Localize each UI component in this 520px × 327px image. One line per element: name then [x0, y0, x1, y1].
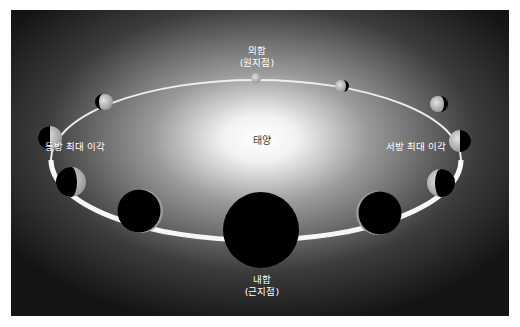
planet-right-lower: [427, 169, 455, 197]
greatest-eastern-elongation-label: 동방 최대 이각: [45, 141, 105, 153]
superior-conjunction-subtitle: (원지점): [240, 57, 274, 69]
inferior-conjunction-label: 내합 (근지점): [245, 274, 279, 298]
sun-label: 태양: [253, 135, 271, 147]
planet-top-right: [335, 80, 349, 92]
orbit-diagram-panel: 외합 (원지점) 태양 동방 최대 이각 서방 최대 이각 내합 (근지점): [11, 10, 509, 316]
inferior-conjunction-title: 내합: [245, 274, 279, 286]
planet-bottom-left: [118, 189, 164, 233]
planet-left-lower: [56, 167, 86, 197]
planet-top-left: [95, 94, 113, 110]
greatest-western-elongation-label: 서방 최대 이각: [386, 141, 446, 153]
superior-conjunction-title: 외합: [240, 45, 274, 57]
planet-right: [449, 130, 471, 152]
inferior-conjunction-subtitle: (근지점): [245, 286, 279, 298]
planet-bottom: [223, 192, 299, 268]
planet-right-upper: [430, 96, 448, 112]
planet-top: [251, 73, 261, 83]
superior-conjunction-label: 외합 (원지점): [240, 45, 274, 69]
planet-bottom-right: [356, 191, 402, 235]
